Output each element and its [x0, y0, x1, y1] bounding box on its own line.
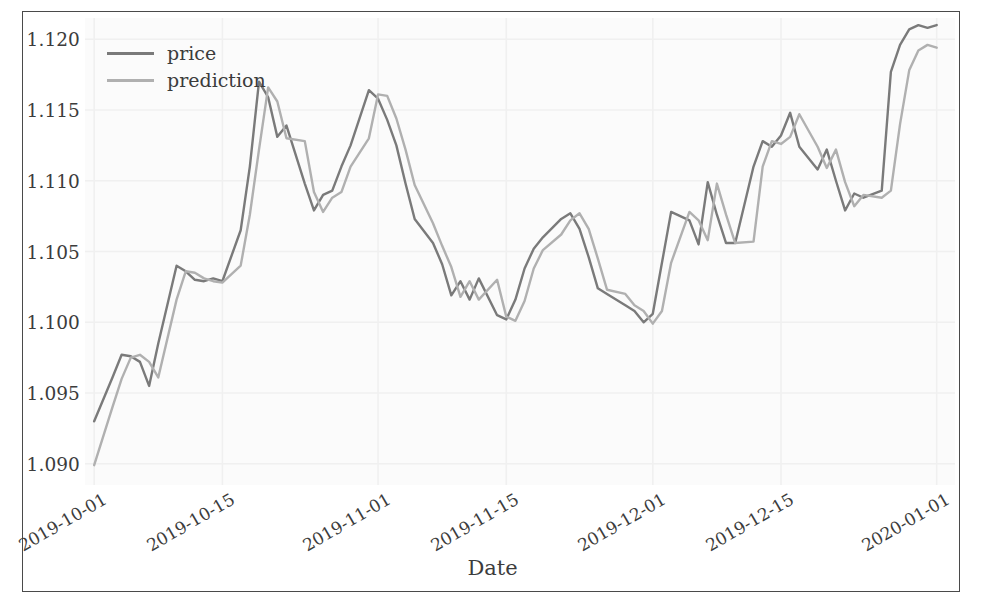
x-axis-title: Date — [0, 556, 985, 580]
x-axis-tick-label: 2019-11-01 — [299, 489, 394, 555]
chart-legend: priceprediction — [103, 36, 274, 98]
plot-area-wrapper: priceprediction — [85, 18, 955, 485]
y-axis-tick-labels: 1.1201.1151.1101.1051.1001.0951.090 — [0, 18, 80, 485]
legend-label: price — [167, 44, 216, 63]
legend-label: prediction — [167, 71, 266, 90]
legend-line-swatch-icon — [107, 79, 154, 82]
y-axis-tick-label: 1.100 — [6, 312, 80, 333]
y-axis-tick-label: 1.115 — [6, 99, 80, 120]
legend-entry: prediction — [107, 67, 266, 94]
x-axis-tick-label: 2020-01-01 — [858, 489, 953, 555]
series-line-prediction — [94, 45, 937, 465]
y-axis-tick-label: 1.105 — [6, 241, 80, 262]
y-axis-tick-label: 1.110 — [6, 170, 80, 191]
y-axis-tick-label: 1.095 — [6, 383, 80, 404]
x-axis-tick-label: 2019-10-15 — [143, 489, 238, 555]
x-axis-tick-label: 2019-12-01 — [574, 489, 669, 555]
figure-canvas: 1.1201.1151.1101.1051.1001.0951.090 pric… — [0, 0, 985, 607]
x-axis-tick-label: 2019-10-01 — [15, 489, 110, 555]
legend-entry: price — [107, 40, 266, 67]
y-axis-tick-label: 1.090 — [6, 453, 80, 474]
x-axis-tick-label: 2019-11-15 — [427, 489, 522, 555]
x-axis-tick-label: 2019-12-15 — [702, 489, 797, 555]
y-axis-tick-label: 1.120 — [6, 29, 80, 50]
legend-line-swatch-icon — [107, 52, 154, 55]
